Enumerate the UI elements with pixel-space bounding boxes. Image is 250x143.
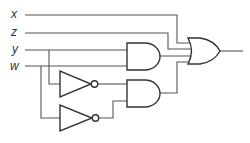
- wire-y-to-not1: [49, 50, 60, 84]
- and-gate-2: [127, 80, 160, 107]
- wire-w-to-not2: [41, 66, 60, 118]
- wire-x: [25, 15, 190, 43]
- not-gate-1: [60, 71, 98, 97]
- wire-and2-to-or: [160, 62, 191, 93]
- not-gate-2: [60, 105, 99, 131]
- wire-not2-to-and2: [99, 101, 127, 118]
- circuit-drawing: [0, 0, 250, 143]
- and-gate-1: [127, 43, 160, 70]
- logic-circuit-diagram: x z y w: [0, 0, 250, 143]
- or-gate: [188, 38, 220, 64]
- wire-z: [25, 33, 192, 49]
